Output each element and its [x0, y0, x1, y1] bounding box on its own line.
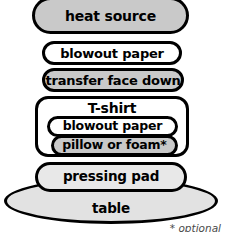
layer-pressing-pad-label: pressing pad: [63, 170, 159, 184]
layer-transfer-face-down-label: transfer face down: [45, 74, 180, 87]
layer-heat-source: heat source: [32, 0, 189, 34]
layer-pillow-or-foam-label: pillow or foam*: [62, 139, 166, 152]
layer-blowout-paper-inner: blowout paper: [47, 116, 178, 137]
footnote-optional: * optional: [170, 222, 221, 232]
layer-pressing-pad: pressing pad: [35, 162, 187, 192]
layer-stack-diagram: heat source blowout paper transfer face …: [0, 0, 225, 232]
layer-tshirt-label: T-shirt: [38, 101, 186, 115]
layer-transfer-face-down: transfer face down: [42, 68, 184, 92]
layer-table-label: table: [92, 202, 130, 216]
layer-blowout-paper-top: blowout paper: [42, 41, 182, 65]
layer-blowout-paper-top-label: blowout paper: [60, 47, 164, 60]
layer-blowout-paper-inner-label: blowout paper: [63, 120, 163, 133]
layer-pillow-or-foam: pillow or foam*: [51, 135, 178, 156]
layer-heat-source-label: heat source: [65, 9, 156, 23]
